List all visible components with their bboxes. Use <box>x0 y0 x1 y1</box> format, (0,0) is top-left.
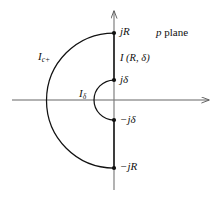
label-minus-jR: −jR <box>120 161 137 172</box>
label-jR: jR <box>120 26 130 37</box>
p-plane-contour-figure: jR I (R, δ) jδ −jδ −jR Ic+ Iδ p plane <box>0 0 219 197</box>
label-p-plane: p plane <box>156 27 188 38</box>
point-marker-jR <box>112 31 116 35</box>
point-marker-minus-jR <box>112 166 116 170</box>
label-I-R-delta: I (R, δ) <box>120 53 150 64</box>
label-j-delta: jδ <box>120 74 128 85</box>
label-I-delta-subscript: δ <box>83 92 87 101</box>
point-marker-j-delta <box>112 78 116 82</box>
point-marker-minus-j-delta <box>112 118 116 122</box>
label-I-c-plus: Ic+ <box>38 51 50 63</box>
label-I-delta: Iδ <box>79 88 86 100</box>
label-I-c-plus-subscript: c+ <box>42 55 50 64</box>
label-p-plane-text: plane <box>164 26 188 38</box>
label-minus-j-delta: −jδ <box>120 114 136 125</box>
